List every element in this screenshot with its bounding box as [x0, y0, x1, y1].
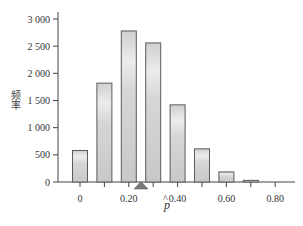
y-tick-label: 2 500 — [28, 41, 51, 52]
histogram-chart: 05001 0001 5002 0002 5003 000 00.200.400… — [0, 0, 303, 226]
y-tick-label: 0 — [45, 177, 50, 188]
histogram-bar — [73, 150, 88, 182]
histogram-bar — [121, 31, 136, 182]
x-tick-label: 0.60 — [218, 193, 236, 204]
y-axis: 05001 0001 5002 0002 5003 000 — [28, 12, 59, 188]
y-tick-label: 2 000 — [28, 68, 51, 79]
y-tick-label: 3 000 — [28, 14, 51, 25]
x-axis-title: p^ — [160, 198, 174, 213]
y-tick-label: 1 500 — [28, 95, 51, 106]
hat-symbol: ^ — [163, 193, 168, 204]
y-axis-title: 频率 — [6, 90, 20, 110]
histogram-bar — [219, 172, 234, 182]
bars — [73, 31, 259, 182]
y-tick-label: 1 000 — [28, 122, 51, 133]
histogram-bar — [195, 149, 210, 182]
histogram-bar — [243, 180, 258, 182]
true-value-marker — [134, 182, 148, 190]
x-tick-label: 0 — [78, 193, 83, 204]
x-axis: 00.200.400.600.80 — [58, 182, 295, 204]
histogram-bar — [170, 105, 185, 182]
x-tick-label: 0.80 — [266, 193, 284, 204]
histogram-bar — [97, 83, 112, 182]
y-tick-label: 500 — [35, 149, 50, 160]
x-tick-label: 0.20 — [120, 193, 138, 204]
triangle-marker-icon — [134, 182, 148, 190]
histogram-bar — [146, 43, 161, 182]
